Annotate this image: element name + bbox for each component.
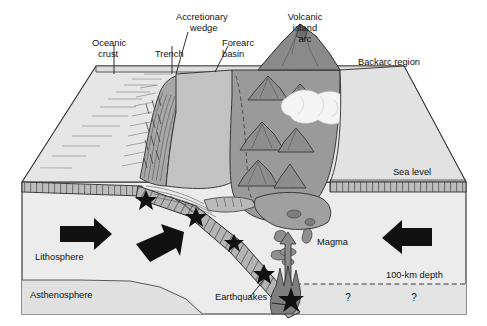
label-question-mark-left: ?: [345, 292, 351, 303]
label-sea-level: Sea level: [393, 167, 431, 177]
label-volcanic-arc-line2: island: [293, 23, 317, 33]
label-question-mark-right: ?: [411, 292, 417, 303]
label-forearc-basin-line1: Forearc: [222, 38, 254, 48]
depth-100km-zone: [296, 284, 466, 314]
label-volcanic-arc-line3: arc: [299, 34, 312, 44]
label-trench: Trench: [155, 49, 184, 59]
forearc-basin: [166, 70, 238, 188]
label-forearc-basin-line2: basin: [222, 49, 244, 59]
label-accretionary-wedge-line2: wedge: [189, 23, 217, 33]
label-lithosphere: Lithosphere: [35, 252, 84, 262]
subduction-zone-diagram: Oceanic crust Trench Accretionary wedge …: [0, 0, 487, 326]
label-volcanic-arc-line1: Volcanic: [288, 12, 323, 22]
backarc-region-surface: [330, 66, 466, 182]
label-oceanic-crust-line1: Oceanic: [92, 38, 126, 48]
label-100km-depth: 100-km depth: [386, 270, 443, 280]
label-accretionary-wedge-line1: Accretionary: [176, 12, 228, 22]
label-earthquakes: Earthquakes: [215, 292, 268, 302]
label-magma: Magma: [317, 237, 349, 247]
label-backarc-region: Backarc region: [358, 57, 420, 67]
label-oceanic-crust-line2: crust: [98, 49, 119, 59]
label-asthenosphere: Asthenosphere: [30, 290, 93, 300]
